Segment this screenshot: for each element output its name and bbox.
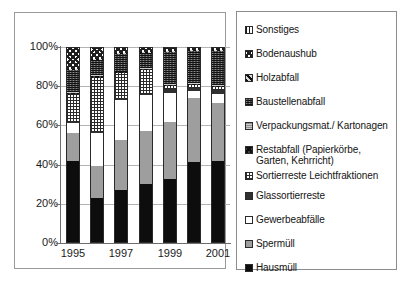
legend-item-label: Bodenaushub — [256, 48, 317, 59]
bar-segment — [90, 78, 104, 132]
plot-area — [61, 47, 230, 243]
bar-segment — [211, 87, 225, 90]
legend-item-label: Sonstiges — [256, 24, 299, 35]
legend-item-label: Sortierreste Leichtfraktionen — [256, 170, 378, 181]
bar-segment — [163, 89, 177, 93]
bar-segment — [211, 90, 225, 94]
bar-segment — [90, 75, 104, 76]
bar-segment — [187, 98, 201, 162]
bar-segment — [139, 70, 153, 95]
legend-swatch-icon — [245, 26, 253, 34]
bar-segment — [139, 53, 153, 68]
x-tick-label: 1999 — [153, 247, 187, 259]
bar-segment — [66, 69, 80, 70]
legend-item-label: Verpackungsmat./ Kartonagen — [256, 120, 388, 131]
bar-segment — [163, 93, 177, 122]
bar-segment — [139, 52, 153, 53]
bar-segment — [66, 92, 80, 93]
legend-item[interactable]: Spermüll — [245, 238, 395, 249]
legend-swatch-icon — [245, 172, 253, 180]
bar-segment — [114, 53, 128, 54]
legend-item-label: Gewerbeabfälle — [256, 214, 325, 225]
legend-item[interactable]: Bodenaushub — [245, 48, 395, 59]
legend-item[interactable]: Baustellenabfall — [245, 96, 395, 107]
y-tick-label: 60% — [18, 119, 58, 130]
bar-2001[interactable] — [211, 47, 225, 243]
x-tick-label: 1995 — [56, 247, 90, 259]
bar-segment — [187, 88, 201, 91]
bar-segment — [139, 184, 153, 243]
y-axis-line — [60, 46, 61, 244]
bar-segment — [90, 76, 104, 78]
bar-segment — [66, 47, 80, 69]
bar-segment — [163, 85, 177, 86]
legend-item-label: Baustellenabfall — [256, 96, 325, 107]
bar-segment — [114, 100, 128, 140]
bar-segment — [163, 51, 177, 52]
bar-segment — [211, 94, 225, 103]
chart-legend: SonstigesBodenaushubHolzabfallBaustellen… — [236, 11, 397, 270]
bar-segment — [187, 91, 201, 98]
y-tick-label: 40% — [18, 159, 58, 170]
bar-segment — [187, 51, 201, 83]
bar-1996[interactable] — [90, 47, 104, 243]
legend-item[interactable]: Glassortierreste — [245, 190, 395, 201]
x-axis-line — [60, 243, 231, 244]
legend-swatch-icon — [245, 50, 253, 58]
x-tick-label: 1997 — [104, 247, 138, 259]
legend-item-label: Restabfall (Papierkörbe, Garten, Kehrric… — [256, 144, 395, 166]
legend-item-label: Glassortierreste — [256, 190, 325, 201]
bar-segment — [66, 161, 80, 243]
legend-item[interactable]: Verpackungsmat./ Kartonagen — [245, 120, 395, 131]
legend-item-label: Hausmüll — [256, 262, 297, 273]
bar-segment — [66, 94, 80, 122]
x-tick-label: 2001 — [201, 247, 235, 259]
bar-segment — [90, 133, 104, 165]
legend-item-label: Spermüll — [256, 238, 295, 249]
y-tick-label: 20% — [18, 198, 58, 209]
bar-segment — [163, 52, 177, 84]
legend-item-label: Holzabfall — [256, 72, 299, 83]
bar-segment — [211, 103, 225, 161]
bar-segment — [66, 122, 80, 123]
legend-item[interactable]: Hausmüll — [245, 262, 395, 273]
bar-segment — [139, 131, 153, 184]
bar-segment — [187, 50, 201, 51]
bar-segment — [163, 179, 177, 243]
bar-segment — [114, 190, 128, 243]
bar-segment — [139, 68, 153, 69]
bar-segment — [163, 122, 177, 179]
bar-segment — [211, 86, 225, 87]
bar-segment — [66, 133, 80, 160]
bar-segment — [66, 123, 80, 133]
legend-item[interactable]: Sortierreste Leichtfraktionen — [245, 170, 395, 181]
y-tick-label: 80% — [18, 80, 58, 91]
bar-segment — [114, 140, 128, 190]
chart-panel: 0%20%40%60%80%100% 1995199719992001 — [14, 12, 226, 269]
bar-segment — [187, 47, 201, 50]
legend-item[interactable]: Gewerbeabfälle — [245, 214, 395, 225]
bar-segment — [90, 60, 104, 76]
bar-segment — [66, 70, 80, 93]
bar-segment — [90, 198, 104, 243]
bar-2000[interactable] — [187, 47, 201, 243]
legend-item[interactable]: Sonstiges — [245, 24, 395, 35]
legend-swatch-icon — [245, 192, 253, 200]
legend-swatch-icon — [245, 98, 253, 106]
bar-1995[interactable] — [66, 47, 80, 243]
x-axis-tick-labels: 1995199719992001 — [61, 247, 233, 263]
bar-segment — [114, 72, 128, 73]
legend-item[interactable]: Holzabfall — [245, 72, 395, 83]
bar-1998[interactable] — [139, 47, 153, 243]
bar-segment — [90, 47, 104, 59]
bar-segment — [211, 85, 225, 86]
legend-item[interactable]: Restabfall (Papierkörbe, Garten, Kehrric… — [245, 144, 395, 166]
bar-segment — [114, 71, 128, 72]
bar-segment — [211, 50, 225, 51]
bar-1999[interactable] — [163, 47, 177, 243]
bar-segment — [187, 85, 201, 88]
bar-1997[interactable] — [114, 47, 128, 243]
bar-segment — [163, 47, 177, 51]
bar-segment — [187, 162, 201, 243]
bar-segment — [90, 132, 104, 133]
